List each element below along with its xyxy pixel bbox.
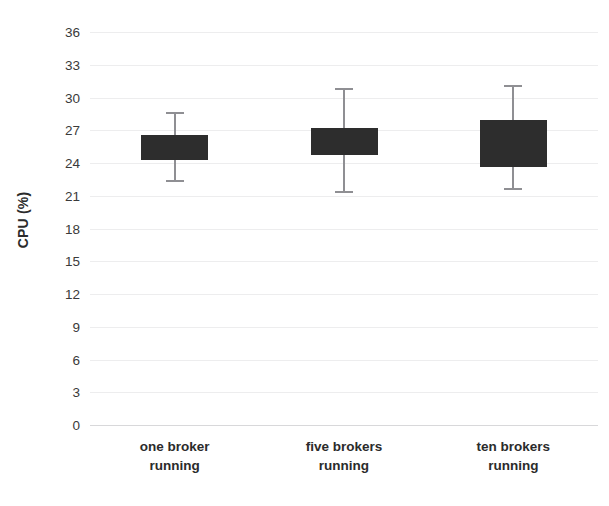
y-axis-tick-label: 18 xyxy=(65,221,80,236)
y-axis-tick-labels: 3633302724211815129630 xyxy=(46,0,90,506)
median-line xyxy=(480,143,547,144)
x-axis-category-label-line: running xyxy=(90,456,259,475)
x-axis-category-label-line: five brokers xyxy=(259,437,428,456)
y-axis-title: CPU (%) xyxy=(0,0,46,440)
box-plot-3[interactable] xyxy=(480,32,547,425)
y-axis-tick-label: 36 xyxy=(65,25,80,40)
whisker-cap-lower xyxy=(504,188,522,190)
whisker-cap-lower xyxy=(166,180,184,182)
box-plot-chart: CPU (%) 3633302724211815129630 one broke… xyxy=(0,0,609,506)
whisker-cap-upper xyxy=(335,88,353,90)
median-line xyxy=(141,148,208,149)
y-axis-tick-label: 15 xyxy=(65,254,80,269)
y-axis-tick-label: 21 xyxy=(65,188,80,203)
x-axis-category-label: one brokerrunning xyxy=(90,437,259,475)
y-axis-tick-label: 6 xyxy=(72,352,80,367)
x-axis-category-label-line: running xyxy=(429,456,598,475)
x-axis-category-label-line: ten brokers xyxy=(429,437,598,456)
whisker-cap-upper xyxy=(504,85,522,87)
axis-baseline xyxy=(90,425,598,426)
y-axis-tick-label: 0 xyxy=(72,418,80,433)
y-axis-tick-label: 27 xyxy=(65,123,80,138)
y-axis-tick-label: 9 xyxy=(72,319,80,334)
whisker-cap-upper xyxy=(166,112,184,114)
y-axis-tick-label: 12 xyxy=(65,287,80,302)
whisker-cap-lower xyxy=(335,191,353,193)
y-axis-tick-label: 33 xyxy=(65,57,80,72)
y-axis-title-text: CPU (%) xyxy=(15,192,31,249)
x-axis-category-label-line: one broker xyxy=(90,437,259,456)
y-axis-tick-label: 24 xyxy=(65,156,80,171)
median-line xyxy=(311,141,378,142)
x-axis-category-label: five brokersrunning xyxy=(259,437,428,475)
y-axis-tick-label: 3 xyxy=(72,385,80,400)
x-axis-category-label-line: running xyxy=(259,456,428,475)
box-plot-2[interactable] xyxy=(311,32,378,425)
y-axis-tick-label: 30 xyxy=(65,90,80,105)
plot-area xyxy=(90,32,598,425)
box-plot-1[interactable] xyxy=(141,32,208,425)
x-axis-category-label: ten brokersrunning xyxy=(429,437,598,475)
x-axis-category-labels: one brokerrunningfive brokersrunningten … xyxy=(90,437,598,499)
